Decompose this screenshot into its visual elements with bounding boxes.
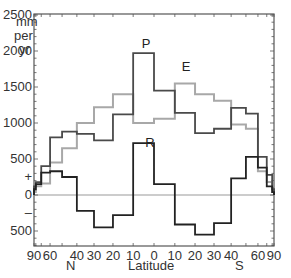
water-balance-chart: 2500200015001000500+0–500 90604030201001… — [0, 0, 291, 278]
series-label-p: P — [142, 36, 151, 51]
x-tick-label: 60 — [251, 248, 265, 263]
y-tick-label: 1000 — [3, 115, 32, 130]
x-tick-label: 60 — [43, 248, 57, 263]
series-label-e: E — [182, 59, 191, 74]
y-axis: 2500200015001000500+0–500 — [3, 7, 274, 245]
y-tick-label: – — [25, 205, 33, 220]
south-label: S — [235, 258, 244, 273]
x-tick-label: 90 — [27, 248, 41, 263]
series-r-line — [34, 143, 274, 234]
x-axis-title: Latitude — [128, 258, 174, 273]
series-label-r: R — [145, 135, 154, 150]
y-tick-label: 500 — [10, 223, 32, 238]
plot-border — [34, 14, 274, 246]
x-tick-label: 30 — [207, 248, 221, 263]
y-tick-label: 0 — [25, 187, 32, 202]
x-tick-label: 90 — [267, 248, 281, 263]
y-unit-label-yr: yr — [19, 42, 31, 57]
x-tick-label: 20 — [188, 248, 202, 263]
x-tick-label: 20 — [106, 248, 120, 263]
y-tick-label: + — [24, 169, 32, 184]
series-group: PER — [34, 36, 274, 235]
y-tick-label: 1500 — [3, 79, 32, 94]
plot-frame — [34, 14, 274, 246]
y-tick-label: 500 — [10, 151, 32, 166]
x-tick-label: 30 — [87, 248, 101, 263]
north-label: N — [66, 258, 75, 273]
y-unit-label-per: per — [14, 28, 33, 43]
y-unit-label-mm: mm — [16, 14, 38, 29]
